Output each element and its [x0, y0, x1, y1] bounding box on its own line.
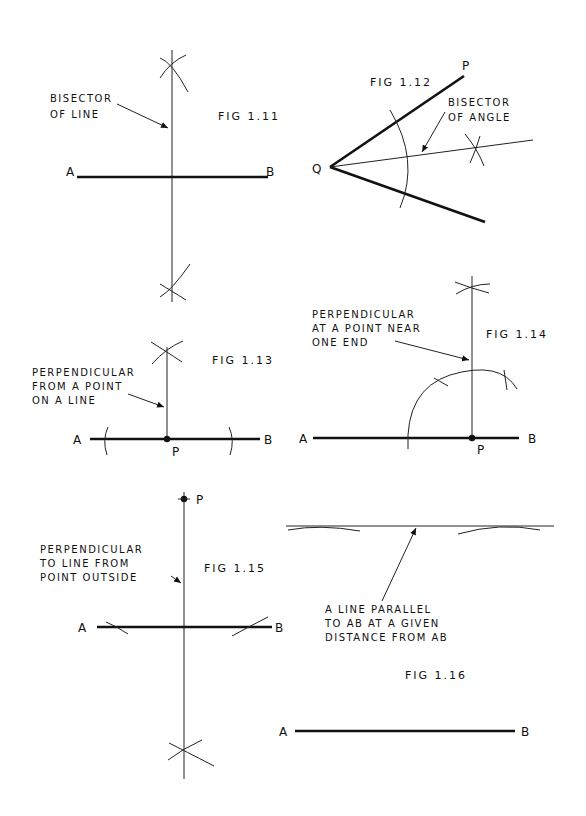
arc-cross-2	[470, 136, 480, 163]
figure-caption: FIG 1.12	[370, 76, 432, 89]
label-b: B	[521, 725, 529, 739]
arc-cross-1	[465, 134, 484, 166]
note-line-3: DISTANCE FROM AB	[325, 632, 448, 643]
fig-1-14-perpendicular-near-end: A B P PERPENDICULAR AT A POINT NEAR ONE …	[299, 276, 548, 457]
point-p-dot	[469, 435, 475, 441]
fig-1-13-perpendicular-from-point-on-line: A B P PERPENDICULAR FROM A POINT ON A LI…	[32, 341, 274, 459]
label-p: P	[196, 493, 203, 507]
label-b: B	[275, 621, 283, 635]
fig-1-16-parallel-line: A B A LINE PARALLEL TO AB AT A GIVEN DIS…	[279, 526, 554, 739]
figure-caption: FIG 1.16	[405, 669, 467, 682]
label-p: P	[172, 445, 179, 459]
label-a: A	[73, 433, 82, 447]
figure-caption: FIG 1.14	[486, 328, 548, 341]
note-line-2: AT A POINT NEAR	[312, 323, 421, 334]
note-line-1: PERPENDICULAR	[40, 544, 143, 555]
arc-top-1	[160, 58, 188, 92]
geometry-construction-sheet: A B BISECTOR OF LINE FIG 1.11 Q P BISECT…	[0, 0, 586, 816]
label-p: P	[477, 443, 484, 457]
leader-arrow	[382, 528, 416, 601]
note-line-2: TO AB AT A GIVEN	[324, 618, 440, 629]
leader-arrow	[395, 341, 469, 360]
leader-arrow	[117, 104, 168, 128]
figure-caption: FIG 1.13	[212, 354, 274, 367]
note-line-1: A LINE PARALLEL	[325, 604, 432, 615]
note-line-3: POINT OUTSIDE	[40, 572, 138, 583]
label-b: B	[264, 433, 272, 447]
leader-arrow	[422, 112, 445, 152]
note-line-3: ONE END	[312, 337, 369, 348]
label-a: A	[78, 621, 87, 635]
label-q: Q	[312, 162, 321, 176]
leader-arrow	[171, 576, 181, 583]
arc-top-2	[160, 55, 186, 78]
note-line-2: OF ANGLE	[448, 112, 511, 123]
fig-1-11-bisector-of-line: A B BISECTOR OF LINE FIG 1.11	[50, 50, 280, 302]
note-line-1: BISECTOR	[50, 93, 112, 104]
fig-1-12-bisector-of-angle: Q P BISECTOR OF ANGLE FIG 1.12	[312, 59, 533, 222]
label-a: A	[299, 432, 308, 446]
figure-caption: FIG 1.15	[204, 562, 266, 575]
arm-qp	[330, 76, 464, 167]
note-line-3: ON A LINE	[32, 395, 96, 406]
note-line-1: PERPENDICULAR	[312, 309, 415, 320]
label-a: A	[279, 725, 288, 739]
arc-tick-right	[504, 370, 507, 390]
label-b: B	[266, 165, 274, 179]
note-line-2: TO LINE FROM	[39, 558, 130, 569]
arc-bottom-2	[160, 264, 190, 297]
label-a: A	[66, 165, 75, 179]
figure-caption: FIG 1.11	[218, 110, 280, 123]
note-line-1: PERPENDICULAR	[32, 367, 135, 378]
arc-right	[229, 427, 232, 455]
bisector-line	[330, 140, 533, 167]
arc-top-2	[456, 284, 490, 294]
note-line-2: FROM A POINT	[32, 381, 123, 392]
fig-1-15-perpendicular-from-outside-point: A B P PERPENDICULAR TO LINE FROM POINT O…	[39, 492, 283, 779]
leader-arrow	[128, 394, 164, 407]
note-line-1: BISECTOR	[448, 97, 510, 108]
label-b: B	[528, 432, 536, 446]
arc-left	[288, 527, 360, 531]
arc-left	[105, 427, 108, 455]
note-line-2: OF LINE	[50, 109, 100, 120]
point-p-dot	[164, 436, 170, 442]
arc-right	[458, 527, 540, 534]
label-p: P	[462, 59, 469, 73]
